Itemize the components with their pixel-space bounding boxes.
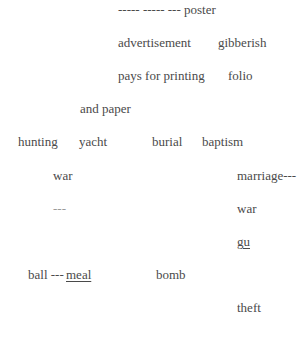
word-fragment: folio <box>228 68 253 84</box>
word-fragment: gu <box>237 234 250 250</box>
word-fragment: pays for printing <box>118 68 205 84</box>
word-fragment: ball --- <box>28 267 64 283</box>
word-fragment: and paper <box>80 101 131 117</box>
word-fragment: war <box>237 201 257 217</box>
word-fragment: meal <box>66 267 91 283</box>
word-fragment: burial <box>152 134 182 150</box>
word-fragment: theft <box>237 300 261 316</box>
word-fragment: ----- ----- --- poster <box>118 2 216 18</box>
word-fragment: advertisement <box>118 35 191 51</box>
word-fragment: hunting <box>18 134 58 150</box>
word-fragment: --- <box>53 201 66 217</box>
word-fragment: war <box>53 168 73 184</box>
word-fragment: baptism <box>202 134 243 150</box>
word-fragment: yacht <box>79 134 107 150</box>
word-fragment: bomb <box>156 267 186 283</box>
word-fragment: gibberish <box>218 35 266 51</box>
word-fragment: marriage--- <box>237 168 296 184</box>
